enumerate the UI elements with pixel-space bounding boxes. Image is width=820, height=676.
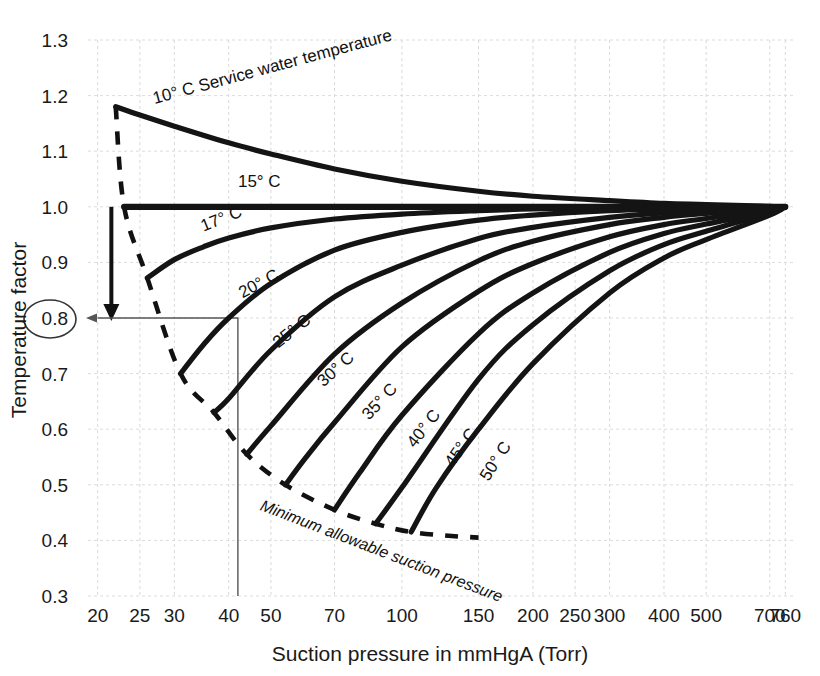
y-tick-label: 1.2 — [42, 86, 68, 107]
x-tick-label: 20 — [87, 605, 108, 626]
x-tick-label: 70 — [324, 605, 345, 626]
y-tick-label: 0.7 — [42, 364, 68, 385]
x-tick-label: 760 — [769, 605, 801, 626]
y-tick-label: 0.4 — [42, 530, 69, 551]
x-tick-label: 40 — [218, 605, 239, 626]
y-tick-label: 0.9 — [42, 252, 68, 273]
chart-figure: 202530405070100150200250300400500700760 … — [0, 0, 820, 676]
y-tick-label: 0.6 — [42, 419, 68, 440]
y-tick-label: 1.1 — [42, 141, 68, 162]
x-tick-label: 300 — [594, 605, 626, 626]
y-tick-label: 0.8 — [42, 308, 68, 329]
x-tick-label: 30 — [164, 605, 185, 626]
y-tick-label: 1.3 — [42, 30, 68, 51]
x-tick-label: 100 — [386, 605, 418, 626]
series-label: 15° C — [238, 172, 281, 191]
x-tick-label: 50 — [260, 605, 281, 626]
x-axis-title: Suction pressure in mmHgA (Torr) — [272, 642, 588, 665]
y-tick-label: 1.0 — [42, 197, 68, 218]
y-axis-title: Temperature factor — [7, 242, 30, 418]
x-tick-label: 150 — [463, 605, 495, 626]
x-tick-label: 500 — [690, 605, 722, 626]
x-tick-label: 200 — [517, 605, 549, 626]
x-tick-label: 250 — [559, 605, 591, 626]
y-tick-label: 0.5 — [42, 475, 68, 496]
x-tick-label: 25 — [129, 605, 150, 626]
y-tick-label: 0.3 — [42, 586, 68, 607]
x-tick-label: 400 — [648, 605, 680, 626]
temperature-factor-chart: 202530405070100150200250300400500700760 … — [0, 0, 820, 676]
